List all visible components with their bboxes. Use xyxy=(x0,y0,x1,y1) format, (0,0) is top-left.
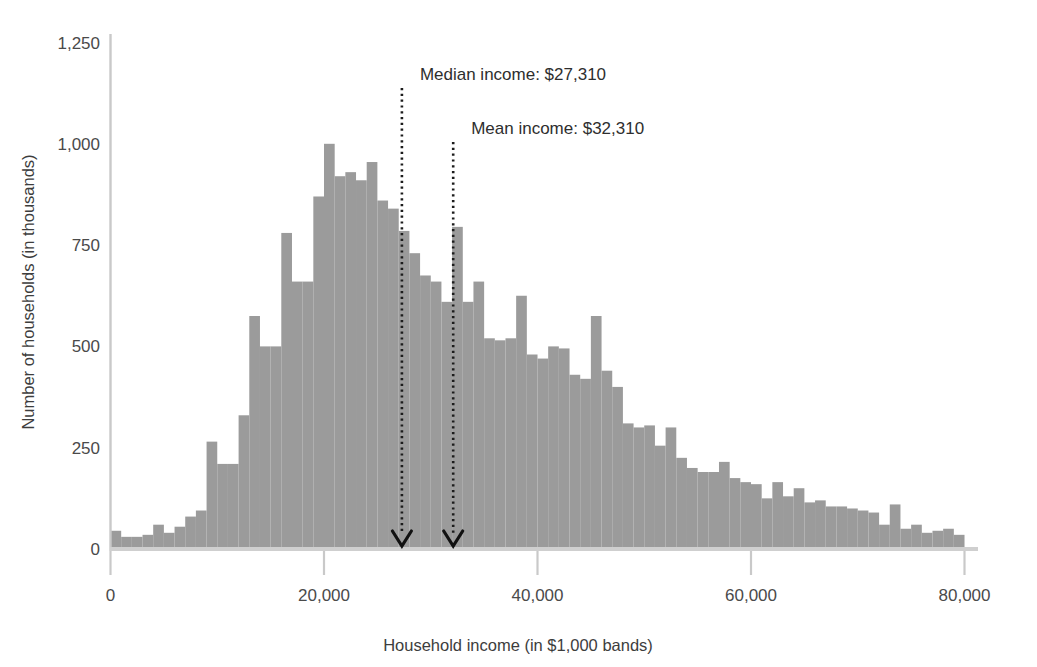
x-tickmarks xyxy=(111,551,965,575)
histogram-bar xyxy=(890,504,901,549)
x-tick-label: 40,000 xyxy=(512,586,564,605)
histogram-bar xyxy=(783,496,794,549)
histogram-bar xyxy=(634,427,645,549)
histogram-bar xyxy=(260,346,271,549)
histogram-bar xyxy=(762,498,773,549)
y-tick-label: 250 xyxy=(72,439,100,458)
histogram-bar xyxy=(153,525,164,549)
histogram-bar xyxy=(932,531,943,549)
histogram-bar xyxy=(602,371,613,549)
chart-canvas: 02505007501,0001,250 020,00040,00060,000… xyxy=(0,0,1037,667)
y-tick-labels: 02505007501,0001,250 xyxy=(57,34,100,560)
histogram-bar xyxy=(111,531,122,549)
histogram-bar xyxy=(719,462,730,549)
histogram-bar xyxy=(527,355,538,550)
x-tick-label: 0 xyxy=(106,586,115,605)
histogram-bar xyxy=(858,511,869,549)
x-tick-label: 60,000 xyxy=(725,586,777,605)
histogram-bar xyxy=(580,379,591,549)
histogram-bar xyxy=(698,472,709,549)
histogram-bar xyxy=(345,172,356,549)
histogram-bar xyxy=(420,275,431,549)
x-axis-group: 020,00040,00060,00080,000 xyxy=(106,549,991,605)
histogram-bar xyxy=(954,535,965,549)
histogram-bar xyxy=(708,472,719,549)
y-tick-label: 0 xyxy=(91,540,100,559)
histogram-bar xyxy=(367,162,378,549)
histogram-bar xyxy=(548,346,559,549)
histogram-chart: 02505007501,0001,250 020,00040,00060,000… xyxy=(0,0,1037,667)
histogram-bar xyxy=(815,500,826,549)
histogram-bar xyxy=(900,529,911,549)
histogram-bar xyxy=(239,415,250,549)
histogram-bar xyxy=(175,527,186,549)
histogram-bar xyxy=(644,425,655,549)
histogram-bar xyxy=(666,427,677,549)
histogram-bar xyxy=(484,338,495,549)
histogram-bar xyxy=(911,525,922,549)
y-tick-label: 750 xyxy=(72,236,100,255)
histogram-bar xyxy=(409,253,420,549)
histogram-bar xyxy=(538,359,549,549)
histogram-bar xyxy=(836,506,847,549)
histogram-bar xyxy=(228,464,239,549)
histogram-bar xyxy=(655,446,666,549)
y-tick-label: 1,250 xyxy=(57,34,100,53)
x-tick-label: 20,000 xyxy=(298,586,350,605)
histogram-bar xyxy=(313,196,324,549)
histogram-bar xyxy=(751,484,762,549)
histogram-bar xyxy=(730,478,741,549)
histogram-bar xyxy=(399,231,410,549)
histogram-bar xyxy=(441,302,452,549)
histogram-bar xyxy=(772,482,783,549)
histogram-bar xyxy=(324,144,335,549)
x-tick-label: 80,000 xyxy=(939,586,991,605)
mean-marker-label: Mean income: $32,310 xyxy=(471,119,644,138)
histogram-bar xyxy=(271,346,282,549)
histogram-bar xyxy=(292,282,303,549)
histogram-bar xyxy=(281,233,292,549)
y-tick-label: 500 xyxy=(72,337,100,356)
histogram-bar xyxy=(591,316,602,549)
histogram-bar xyxy=(473,282,484,549)
histogram-bar xyxy=(388,209,399,549)
histogram-bar xyxy=(143,535,154,549)
histogram-bar xyxy=(516,296,527,549)
histogram-bar xyxy=(463,302,474,549)
histogram-bar xyxy=(612,387,623,549)
histogram-bar xyxy=(185,517,196,549)
y-axis-title: Number of households (in thousands) xyxy=(19,154,37,429)
histogram-bar xyxy=(623,423,634,549)
histogram-bar xyxy=(377,201,388,549)
histogram-bar xyxy=(868,513,879,549)
x-tick-labels: 020,00040,00060,00080,000 xyxy=(106,586,991,605)
histogram-bar xyxy=(943,529,954,549)
histogram-bar xyxy=(559,348,570,549)
histogram-bar xyxy=(826,506,837,549)
histogram-bar xyxy=(431,282,442,549)
histogram-bar xyxy=(303,282,314,549)
histogram-bar xyxy=(794,488,805,549)
histogram-bar xyxy=(164,533,175,549)
histogram-bar xyxy=(687,468,698,549)
histogram-bar xyxy=(196,511,207,549)
bars-group xyxy=(111,144,965,549)
y-axis-group: 02505007501,0001,250 xyxy=(57,34,110,560)
x-axis-title: Household income (in $1,000 bands) xyxy=(383,636,653,654)
histogram-bar xyxy=(922,533,933,549)
histogram-bar xyxy=(847,508,858,549)
histogram-bar xyxy=(570,375,581,549)
histogram-bar xyxy=(335,176,346,549)
histogram-bar xyxy=(356,180,367,549)
histogram-bar xyxy=(452,227,463,549)
histogram-bar xyxy=(676,458,687,549)
histogram-bar xyxy=(207,442,218,549)
histogram-bar xyxy=(217,464,228,549)
histogram-bar xyxy=(804,502,815,549)
histogram-bar xyxy=(495,340,506,549)
y-tick-label: 1,000 xyxy=(57,135,100,154)
histogram-bar xyxy=(879,525,890,549)
histogram-bar xyxy=(505,338,516,549)
histogram-bar xyxy=(249,316,260,549)
histogram-bar xyxy=(740,482,751,549)
